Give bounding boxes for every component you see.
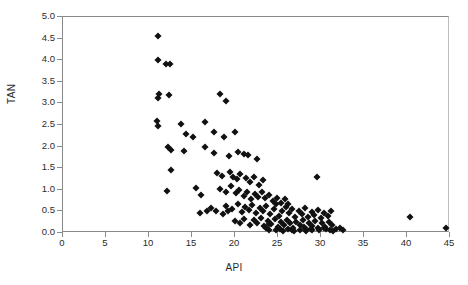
- data-point: [156, 90, 163, 97]
- y-axis-tick-label: 4.0: [42, 54, 55, 64]
- x-axis-tick-label: 45: [444, 238, 455, 248]
- data-point: [313, 173, 320, 180]
- data-point: [197, 191, 204, 198]
- y-axis-title: TAN: [6, 84, 17, 104]
- data-point: [234, 201, 241, 208]
- data-point: [244, 152, 251, 159]
- data-point: [201, 143, 208, 150]
- data-point: [219, 172, 226, 179]
- y-axis-tick-label: 2.0: [42, 141, 55, 151]
- x-axis-title: API: [0, 262, 468, 273]
- y-axis-tick: [57, 81, 62, 82]
- data-point: [177, 120, 184, 127]
- data-points-layer: [63, 17, 448, 231]
- data-point: [339, 226, 346, 233]
- y-axis-tick: [57, 38, 62, 39]
- data-point: [189, 134, 196, 141]
- y-axis-tick: [57, 124, 62, 125]
- data-point: [168, 146, 175, 153]
- y-axis-tick-label: 0.0: [42, 227, 55, 237]
- y-axis-tick: [57, 16, 62, 17]
- x-axis-tick-label: 5: [102, 238, 107, 248]
- x-axis-tick-label: 35: [358, 238, 369, 248]
- x-axis-tick-label: 10: [143, 238, 154, 248]
- y-axis-tick-label: 3.0: [42, 97, 55, 107]
- data-point: [328, 207, 335, 214]
- y-axis-tick-label: 3.5: [42, 76, 55, 86]
- data-point: [220, 134, 227, 141]
- data-point: [154, 123, 161, 130]
- y-axis-tick-label: 5.0: [42, 11, 55, 21]
- x-axis-tick-label: 40: [401, 238, 412, 248]
- y-axis-tick: [57, 59, 62, 60]
- data-point: [442, 224, 449, 231]
- y-axis-tick-label: 4.5: [42, 33, 55, 43]
- data-point: [217, 90, 224, 97]
- y-axis-tick-label: 1.5: [42, 162, 55, 172]
- data-point: [201, 119, 208, 126]
- data-point: [193, 184, 200, 191]
- y-axis-tick-label: 1.0: [42, 184, 55, 194]
- data-point: [155, 33, 162, 40]
- scatter-chart-figure: 0.00.51.01.52.02.53.03.54.04.55.0 051015…: [0, 0, 468, 285]
- plot-area: [62, 16, 449, 232]
- data-point: [210, 150, 217, 157]
- data-point: [227, 183, 234, 190]
- x-axis-tick-label: 15: [186, 238, 197, 248]
- y-axis-tick: [57, 210, 62, 211]
- y-axis-tick: [57, 167, 62, 168]
- x-axis-tick-label: 25: [272, 238, 283, 248]
- y-axis-tick-label: 0.5: [42, 205, 55, 215]
- y-axis-tick-label: 2.5: [42, 119, 55, 129]
- data-point: [236, 186, 243, 193]
- data-point: [254, 155, 261, 162]
- x-axis-tick-label: 20: [229, 238, 240, 248]
- y-axis-tick: [57, 146, 62, 147]
- data-point: [181, 147, 188, 154]
- data-point: [211, 129, 218, 136]
- data-point: [406, 214, 413, 221]
- y-axis-tick: [57, 189, 62, 190]
- x-axis-tick-label: 30: [315, 238, 326, 248]
- data-point: [231, 129, 238, 136]
- data-point: [168, 166, 175, 173]
- y-axis-tick: [57, 102, 62, 103]
- data-point: [164, 188, 171, 195]
- data-point: [155, 57, 162, 64]
- data-point: [223, 98, 230, 105]
- x-axis-tick-label: 0: [59, 238, 64, 248]
- data-point: [165, 91, 172, 98]
- data-point: [225, 153, 232, 160]
- data-point: [246, 222, 253, 229]
